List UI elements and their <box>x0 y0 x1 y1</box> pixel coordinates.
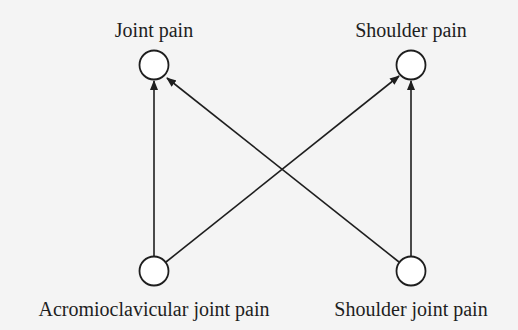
node-joint-pain <box>140 51 169 80</box>
node-shoulder-pain <box>397 51 426 80</box>
diagram-canvas <box>0 0 518 330</box>
label-joint-pain: Joint pain <box>115 20 193 40</box>
label-ac-joint-pain: Acromioclavicular joint pain <box>38 299 269 319</box>
label-shoulder-joint-pain: Shoulder joint pain <box>334 299 487 319</box>
node-shoulder-joint-pain <box>397 257 426 286</box>
label-shoulder-pain: Shoulder pain <box>355 20 467 40</box>
node-ac-joint-pain <box>140 257 169 286</box>
